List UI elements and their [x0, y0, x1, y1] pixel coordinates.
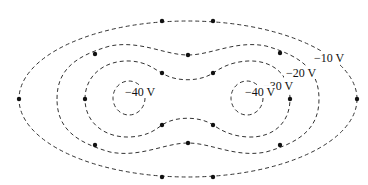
label-minus-40v-right: −40 V [245, 85, 276, 99]
label-minus-20v: −20 V [286, 66, 317, 80]
equipotential-diagram: −10 V −20 V −30 V −40 V −40 V [0, 0, 368, 185]
contour-minus-10v [19, 21, 357, 177]
point [211, 175, 215, 179]
label-minus-10v: −10 V [314, 51, 345, 65]
point [211, 71, 215, 75]
point [211, 19, 215, 23]
points [17, 19, 359, 179]
point [160, 19, 164, 23]
contour-minus-20v [57, 45, 319, 154]
point [17, 97, 21, 101]
point [288, 97, 292, 101]
point [83, 97, 87, 101]
point [278, 51, 282, 55]
point [186, 141, 190, 145]
point [93, 52, 97, 56]
label-minus-40v-left: −40 V [125, 85, 156, 99]
point [160, 175, 164, 179]
point [355, 97, 359, 101]
point [278, 143, 282, 147]
contour-minus-30v [85, 61, 290, 137]
point [211, 123, 215, 127]
point [160, 71, 164, 75]
point [186, 53, 190, 57]
point [93, 143, 97, 147]
point [160, 123, 164, 127]
